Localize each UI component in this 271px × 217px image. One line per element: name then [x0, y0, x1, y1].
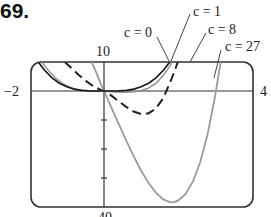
curve-c8 — [65, 62, 178, 114]
label-c1: c = 1 — [193, 4, 221, 19]
function-graph: c = 0 c = 1 c = 8 c = 27 10 −40 −2 4 — [0, 0, 271, 217]
y-max-label: 10 — [96, 44, 110, 59]
label-c0: c = 0 — [124, 25, 152, 40]
y-min-label: −40 — [90, 210, 112, 217]
label-c8: c = 8 — [208, 22, 236, 37]
curve-c1 — [42, 62, 173, 92]
x-min-label: −2 — [4, 84, 19, 99]
graph-frame — [31, 62, 253, 207]
label-c27: c = 27 — [225, 39, 260, 54]
x-max-label: 4 — [260, 84, 267, 99]
